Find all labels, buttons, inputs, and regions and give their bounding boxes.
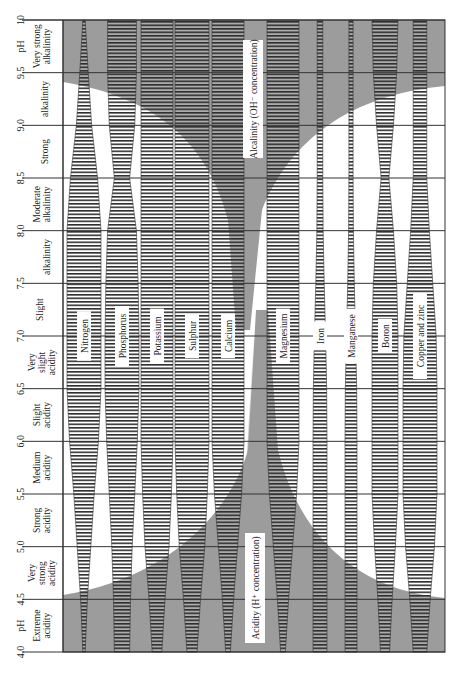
ph-tick-label: 6.5 xyxy=(15,382,26,395)
svg-text:alkalinity: alkalinity xyxy=(42,239,52,275)
svg-text:Medium: Medium xyxy=(32,451,42,484)
svg-text:Very strong: Very strong xyxy=(32,24,42,68)
ph-tick-label: 7.5 xyxy=(15,277,26,290)
svg-text:Manganese: Manganese xyxy=(347,314,357,357)
svg-text:Nitrogen: Nitrogen xyxy=(80,319,90,353)
reaction-class-label: Slightalkalinity xyxy=(35,239,52,321)
svg-text:Strong: Strong xyxy=(40,139,50,165)
svg-text:acidity: acidity xyxy=(42,612,52,638)
ph-tick-label: 10 xyxy=(15,15,26,25)
ph-tick-label: 4.0 xyxy=(15,646,26,659)
ph-axis: 4.04.55.05.56.06.57.07.58.08.59.09.510pH… xyxy=(15,15,26,658)
nutrient-label: Boron xyxy=(378,319,392,353)
nutrient-label: Phosphorus xyxy=(115,306,129,366)
svg-text:Extreme: Extreme xyxy=(32,610,42,642)
svg-text:Alcalinity (OH⁻ concentration): Alcalinity (OH⁻ concentration) xyxy=(249,39,260,159)
svg-text:alkalinity: alkalinity xyxy=(42,186,52,222)
svg-text:Slight: Slight xyxy=(32,403,42,426)
nutrient-label: Sulphur xyxy=(185,314,199,358)
nutrient-label: Potassium xyxy=(150,309,164,364)
svg-text:Acidity (H⁺ concentration): Acidity (H⁺ concentration) xyxy=(251,536,262,639)
svg-text:Iron: Iron xyxy=(316,328,326,344)
svg-text:Magnesium: Magnesium xyxy=(279,313,289,358)
svg-text:strong: strong xyxy=(37,561,47,585)
reaction-class-label: Very strongalkalinity xyxy=(32,24,52,68)
svg-text:Slight: Slight xyxy=(35,298,45,321)
figure-caption-clipped xyxy=(0,674,457,685)
ph-tick-label: 5.5 xyxy=(15,488,26,501)
nutrient-label: Nitrogen xyxy=(77,311,91,361)
reaction-class-labels: ExtremeacidityVerystrongacidityStrongaci… xyxy=(27,24,57,642)
nutrient-label: Manganese xyxy=(344,309,358,364)
reaction-class-label: Verystrongacidity xyxy=(27,560,57,586)
svg-text:Moderate: Moderate xyxy=(32,186,42,222)
svg-text:acidity: acidity xyxy=(42,454,52,480)
ph-tick-label: 6.0 xyxy=(15,435,26,448)
svg-text:slight: slight xyxy=(37,351,47,372)
reaction-class-label: Mediumacidity xyxy=(32,451,52,484)
acidity-label: Acidity (H⁺ concentration) xyxy=(245,533,265,643)
reaction-class-label: Moderatealkalinity xyxy=(32,186,52,222)
svg-text:Potassium: Potassium xyxy=(153,316,163,356)
reaction-class-label: Extremeacidity xyxy=(32,610,52,642)
ph-axis-title: pH xyxy=(15,40,26,52)
ph-tick-label: 8.5 xyxy=(15,172,26,185)
reaction-class-label: Strongalkalinity xyxy=(40,81,50,165)
ph-axis-title: pH xyxy=(15,620,26,632)
ph-tick-label: 9.0 xyxy=(15,119,26,132)
nutrient-label: Calcium xyxy=(221,314,235,358)
nutrient-availability-chart: 4.04.55.05.56.06.57.07.58.08.59.09.510pH… xyxy=(0,0,457,685)
nutrient-label: Iron xyxy=(313,322,327,351)
ph-tick-label: 4.5 xyxy=(15,593,26,606)
svg-text:Boron: Boron xyxy=(381,324,391,348)
ph-tick-label: 9.5 xyxy=(15,66,26,79)
nutrient-label: Copper and zinc xyxy=(413,293,427,379)
alkalinity-label: Alcalinity (OH⁻ concentration) xyxy=(243,39,263,159)
svg-text:Very: Very xyxy=(27,564,37,582)
svg-text:acidity: acidity xyxy=(42,507,52,533)
svg-text:Calcium: Calcium xyxy=(224,319,234,352)
svg-text:acidity: acidity xyxy=(47,349,57,375)
nutrient-label: Magnesium xyxy=(276,309,290,364)
svg-text:acidity: acidity xyxy=(47,560,57,586)
reaction-class-label: Strongacidity xyxy=(32,507,52,533)
ph-tick-label: 8.0 xyxy=(15,224,26,237)
svg-text:Sulphur: Sulphur xyxy=(188,320,198,351)
reaction-class-label: Veryslightacidity xyxy=(27,349,57,375)
svg-text:Copper and zinc: Copper and zinc xyxy=(416,305,426,367)
svg-text:Phosphorus: Phosphorus xyxy=(118,314,128,359)
svg-text:alkalinity: alkalinity xyxy=(40,81,50,117)
ph-tick-label: 7.0 xyxy=(15,330,26,343)
svg-text:acidity: acidity xyxy=(42,402,52,428)
svg-text:Very: Very xyxy=(27,353,37,371)
svg-text:Strong: Strong xyxy=(32,507,42,533)
svg-text:alkalinity: alkalinity xyxy=(42,28,52,64)
reaction-class-label: Slightacidity xyxy=(32,402,52,428)
ph-tick-label: 5.0 xyxy=(15,540,26,553)
